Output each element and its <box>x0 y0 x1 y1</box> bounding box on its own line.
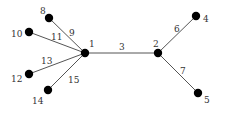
edge-label: 6 <box>174 24 180 34</box>
node-2 <box>154 49 162 57</box>
node-5 <box>194 89 202 97</box>
node-label: 5 <box>204 95 210 105</box>
edge-label: 11 <box>51 32 62 42</box>
edge-label: 7 <box>180 66 186 76</box>
edge-2-4 <box>158 16 196 53</box>
node-14 <box>44 86 52 94</box>
node-4 <box>192 12 200 20</box>
node-label: 2 <box>153 39 159 49</box>
node-8 <box>45 14 53 22</box>
edges-layer <box>29 16 198 93</box>
labels-layer: 367911131512458101214 <box>11 6 210 106</box>
graph-diagram: 367911131512458101214 <box>0 0 225 123</box>
node-label: 1 <box>89 39 95 49</box>
node-label: 8 <box>40 6 46 16</box>
edge-1-12 <box>29 53 85 74</box>
node-10 <box>25 28 33 36</box>
edge-2-5 <box>158 53 198 93</box>
edge-label: 3 <box>119 42 125 52</box>
node-1 <box>81 49 89 57</box>
edge-label: 15 <box>68 75 80 85</box>
node-label: 10 <box>11 29 23 39</box>
node-label: 12 <box>11 74 22 84</box>
edge-label: 13 <box>41 56 53 66</box>
node-label: 14 <box>32 96 44 106</box>
node-12 <box>25 70 33 78</box>
edge-label: 9 <box>69 28 75 38</box>
node-label: 4 <box>203 14 209 24</box>
